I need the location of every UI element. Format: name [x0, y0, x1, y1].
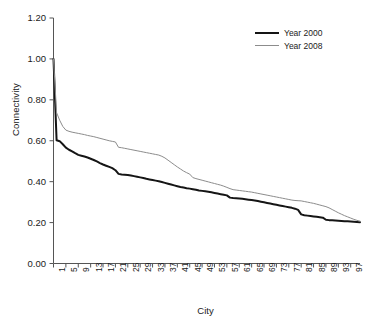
- x-axis-title: City: [52, 305, 359, 316]
- x-tick-label: 73: [280, 262, 289, 271]
- x-tick-label: 45: [194, 262, 203, 271]
- x-tick-label: 41: [181, 262, 190, 271]
- legend-line-swatch-icon: [255, 45, 279, 46]
- x-tick-label: 97: [355, 262, 364, 271]
- x-tick-label: 93: [342, 262, 351, 271]
- legend-item-year-2000: Year 2000: [255, 27, 322, 38]
- x-tick-label: 81: [305, 262, 314, 271]
- x-tick-label: 29: [144, 262, 153, 271]
- x-tick-label: 5: [70, 267, 79, 272]
- x-tick-label: 69: [268, 262, 277, 271]
- x-tick-label: 53: [218, 262, 227, 271]
- x-tick-label: 33: [157, 262, 166, 271]
- x-tick-label: 37: [169, 262, 178, 271]
- x-tick-label: 17: [107, 262, 116, 271]
- x-tick-label: 89: [330, 262, 339, 271]
- x-tick-label: 25: [132, 262, 141, 271]
- x-tick-label: 85: [318, 262, 327, 271]
- legend-line-swatch-icon: [255, 32, 279, 34]
- x-tick-label: 57: [231, 262, 240, 271]
- x-tick-label: 65: [256, 262, 265, 271]
- x-tick-label: 13: [95, 262, 104, 271]
- x-tick-label: 77: [293, 262, 302, 271]
- chart-figure: Connectivity 1.201.000.800.600.400.200.0…: [0, 0, 369, 327]
- x-tick-label: 49: [206, 262, 215, 271]
- legend-label: Year 2000: [284, 28, 322, 38]
- x-tick-label: 9: [82, 267, 91, 272]
- chart-legend: Year 2000 Year 2008: [255, 27, 322, 53]
- legend-item-year-2008: Year 2008: [255, 40, 322, 51]
- x-tick-label: 1: [58, 267, 67, 272]
- x-tick-label: 21: [119, 262, 128, 271]
- x-tick-label: 61: [243, 262, 252, 271]
- legend-label: Year 2008: [284, 41, 322, 51]
